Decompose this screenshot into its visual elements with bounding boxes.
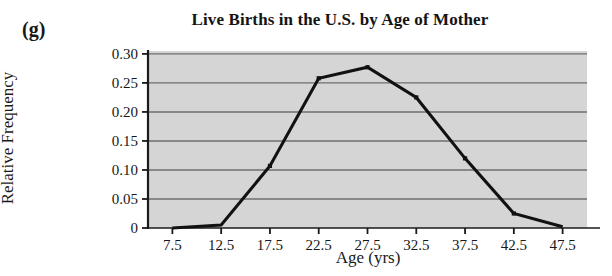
y-tick-label: 0.10: [112, 162, 138, 178]
x-tick-label: 47.5: [549, 237, 575, 253]
x-tick-label: 7.5: [163, 237, 182, 253]
data-point-marker: [463, 156, 467, 160]
x-tick-labels: 7.512.517.522.527.532.537.542.547.5: [163, 237, 576, 253]
plot-area-background: [148, 51, 587, 228]
y-tick-label: 0.25: [112, 75, 138, 91]
y-tick-label: 0: [131, 220, 139, 236]
y-tick-labels: 00.050.100.150.200.250.30: [112, 46, 138, 236]
plot-svg: 00.050.100.150.200.250.30 7.512.517.522.…: [0, 0, 612, 276]
x-tick-label: 37.5: [452, 237, 478, 253]
data-point-marker: [512, 211, 516, 215]
x-tick-label: 12.5: [208, 237, 234, 253]
y-tick-label: 0.05: [112, 191, 138, 207]
data-point-marker: [414, 95, 418, 99]
data-point-marker: [317, 76, 321, 80]
x-tick-label: 42.5: [501, 237, 527, 253]
x-tick-label: 27.5: [354, 237, 380, 253]
data-point-marker: [365, 65, 369, 69]
x-tick-marks: [172, 228, 562, 234]
x-tick-label: 17.5: [257, 237, 283, 253]
x-tick-label: 32.5: [403, 237, 429, 253]
y-tick-label: 0.15: [112, 133, 138, 149]
x-tick-label: 22.5: [306, 237, 332, 253]
y-tick-label: 0.20: [112, 104, 138, 120]
figure-container: (g) Live Births in the U.S. by Age of Mo…: [0, 0, 612, 276]
y-tick-label: 0.30: [112, 46, 138, 62]
data-point-marker: [268, 164, 272, 168]
